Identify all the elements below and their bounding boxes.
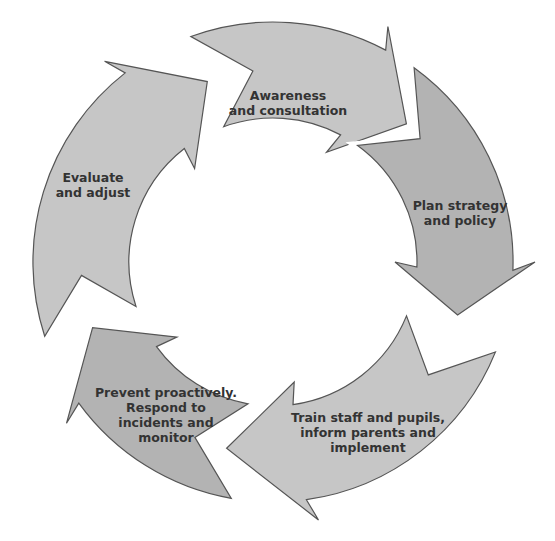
step-label-evaluate: Evaluate and adjust xyxy=(56,170,131,200)
step-label-plan: Plan strategy and policy xyxy=(413,198,508,228)
step-label-train: Train staff and pupils, inform parents a… xyxy=(291,410,445,455)
step-label-prevent: Prevent proactively. Respond to incident… xyxy=(95,385,237,445)
cycle-diagram xyxy=(0,0,555,541)
step-label-awareness: Awareness and consultation xyxy=(229,88,347,118)
